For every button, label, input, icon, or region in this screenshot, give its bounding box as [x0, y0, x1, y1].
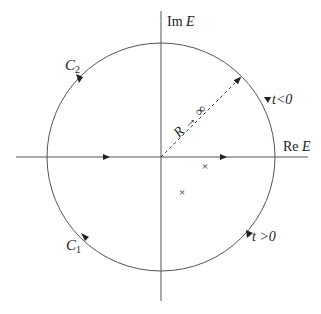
condition-t-negative: t<0 — [272, 92, 292, 107]
real-axis-arrow-right-icon — [220, 154, 227, 160]
contour-c2-label: C2 — [65, 57, 80, 75]
contour-diagram: × × Im E Re E C2 C1 R → ∞ t<0 t >0 — [0, 0, 321, 314]
real-axis-label: Re E — [283, 139, 311, 154]
t-negative-direction-arrow-icon — [264, 97, 271, 103]
radius-label: R → ∞ — [170, 102, 209, 141]
imaginary-axis-label: Im E — [167, 14, 195, 29]
condition-t-positive: t >0 — [252, 229, 276, 244]
pole-marker-2: × — [179, 186, 185, 198]
pole-marker-1: × — [202, 160, 208, 172]
real-axis-arrow-left-icon — [103, 154, 110, 160]
contour-c1-label: C1 — [66, 237, 81, 255]
